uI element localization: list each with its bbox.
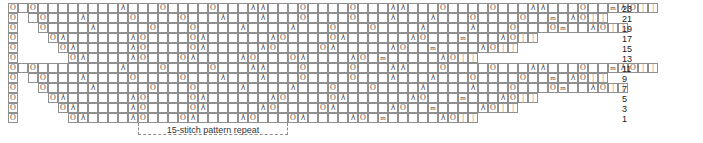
yarn-over-cell: O bbox=[158, 63, 168, 73]
decrease-cell: λ bbox=[78, 73, 88, 83]
cell-symbol bbox=[159, 104, 167, 112]
blank-cell bbox=[198, 83, 208, 93]
decrease-cell: λ bbox=[258, 3, 268, 13]
cell-symbol bbox=[309, 94, 317, 102]
cell-symbol bbox=[229, 64, 237, 72]
blank-cell bbox=[208, 33, 218, 43]
cell-symbol bbox=[479, 94, 487, 102]
cell-symbol: λ bbox=[129, 44, 137, 52]
yarn-over-cell: O bbox=[188, 33, 198, 43]
decrease-cell: λ bbox=[238, 83, 248, 93]
yarn-over-cell: O bbox=[328, 23, 338, 33]
edge-yarn-over-cell: O bbox=[8, 103, 18, 113]
cell-symbol bbox=[189, 64, 197, 72]
repeat-label: 15-stitch pattern repeat bbox=[138, 125, 288, 135]
cell-symbol: O bbox=[209, 4, 217, 12]
blank-cell bbox=[218, 3, 228, 13]
cell-symbol bbox=[289, 104, 297, 112]
cell-symbol bbox=[189, 74, 197, 82]
blank-cell bbox=[298, 43, 308, 53]
yarn-over-cell: O bbox=[138, 33, 148, 43]
blank-cell bbox=[498, 13, 508, 23]
blank-cell bbox=[78, 33, 88, 43]
blank-cell bbox=[408, 3, 418, 13]
blank-cell bbox=[268, 23, 278, 33]
blank-cell bbox=[448, 103, 458, 113]
cell-symbol: λ bbox=[589, 24, 597, 32]
cell-symbol bbox=[109, 34, 117, 42]
cell-symbol bbox=[159, 74, 167, 82]
cell-symbol bbox=[359, 104, 367, 112]
blank-cell bbox=[358, 23, 368, 33]
cell-symbol bbox=[299, 24, 307, 32]
blank-cell bbox=[238, 3, 248, 13]
blank-cell bbox=[48, 73, 58, 83]
cell-symbol bbox=[539, 24, 547, 32]
blank-cell bbox=[378, 13, 388, 23]
cell-symbol bbox=[139, 84, 147, 92]
blank-cell bbox=[458, 13, 468, 23]
cell-symbol bbox=[379, 84, 387, 92]
blank-cell bbox=[418, 3, 428, 13]
cell-symbol bbox=[169, 44, 177, 52]
cell-symbol: λ bbox=[79, 74, 87, 82]
cell-symbol bbox=[79, 24, 87, 32]
cell-symbol: O bbox=[349, 74, 357, 82]
cell-symbol bbox=[489, 14, 497, 22]
cell-symbol bbox=[559, 64, 567, 72]
cell-symbol bbox=[549, 4, 557, 12]
blank-cell bbox=[148, 93, 158, 103]
cell-symbol bbox=[219, 24, 227, 32]
knit-cell: | bbox=[598, 73, 608, 83]
edge-yarn-over-cell: O bbox=[8, 13, 18, 23]
cell-symbol bbox=[539, 74, 547, 82]
cell-symbol: O bbox=[189, 44, 197, 52]
cell-symbol bbox=[419, 44, 427, 52]
cell-symbol: | bbox=[609, 84, 617, 92]
cell-symbol bbox=[129, 64, 137, 72]
cell-symbol bbox=[169, 34, 177, 42]
cell-symbol bbox=[479, 4, 487, 12]
cell-symbol bbox=[79, 44, 87, 52]
yarn-over-cell: O bbox=[508, 83, 518, 93]
cell-symbol: O bbox=[139, 104, 147, 112]
cell-symbol: O bbox=[9, 24, 17, 32]
cell-symbol bbox=[179, 34, 187, 42]
cell-symbol: O bbox=[329, 24, 337, 32]
blank-cell bbox=[468, 33, 478, 43]
cell-symbol bbox=[109, 14, 117, 22]
cell-symbol: λ bbox=[59, 94, 67, 102]
blank-cell bbox=[378, 103, 388, 113]
blank-cell bbox=[108, 3, 118, 13]
blank-cell bbox=[448, 3, 458, 13]
cell-symbol bbox=[419, 64, 427, 72]
cell-symbol bbox=[399, 114, 407, 122]
blank-cell bbox=[238, 13, 248, 23]
blank-cell bbox=[338, 113, 348, 123]
blank-cell bbox=[278, 23, 288, 33]
blank-cell bbox=[478, 63, 488, 73]
blank-cell bbox=[288, 63, 298, 73]
decrease-cell: λ bbox=[498, 93, 508, 103]
decrease-cell: λ bbox=[538, 63, 548, 73]
blank-cell bbox=[358, 13, 368, 23]
cell-symbol bbox=[259, 34, 267, 42]
cell-symbol: λ bbox=[239, 54, 247, 62]
blank-cell bbox=[418, 113, 428, 123]
cell-symbol: O bbox=[9, 54, 17, 62]
cell-symbol: O bbox=[439, 64, 447, 72]
edge-yarn-over-cell: O bbox=[8, 83, 18, 93]
cell-symbol bbox=[109, 4, 117, 12]
cell-symbol bbox=[279, 54, 287, 62]
cell-symbol bbox=[349, 34, 357, 42]
cell-symbol bbox=[89, 44, 97, 52]
row-number: 23 bbox=[622, 4, 632, 14]
blank-cell bbox=[238, 73, 248, 83]
blank-cell bbox=[208, 83, 218, 93]
cell-symbol: λ bbox=[119, 4, 127, 12]
blank-cell bbox=[458, 23, 468, 33]
cell-symbol: O bbox=[129, 74, 137, 82]
cell-symbol: λ bbox=[299, 54, 307, 62]
blank-cell bbox=[58, 63, 68, 73]
cell-symbol bbox=[449, 94, 457, 102]
